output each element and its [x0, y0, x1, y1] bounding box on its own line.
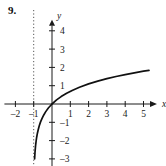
x-axis-tick-label: 4 — [123, 109, 128, 119]
x-axis-arrowhead — [150, 101, 157, 107]
x-axis-tick-label: 5 — [141, 109, 146, 119]
y-axis-label: y — [56, 11, 62, 21]
y-axis-tick-label: 4 — [60, 26, 65, 36]
y-axis-tick-label: –3 — [59, 154, 70, 164]
y-axis-tick-label: –1 — [59, 118, 70, 128]
y-axis-tick-label: –2 — [59, 136, 70, 146]
x-axis-tick-label: 2 — [86, 109, 91, 119]
y-axis-tick-label: 2 — [60, 63, 65, 73]
y-axis-arrowhead — [49, 20, 55, 26]
figure-container: 9. –2–112345–3–2–11234xy — [0, 0, 166, 166]
x-axis-tick-label: –2 — [10, 109, 21, 119]
x-axis-tick-label: 3 — [105, 109, 110, 119]
x-axis-tick-label: –1 — [28, 109, 39, 119]
x-axis-label: x — [161, 99, 166, 109]
plot-render-layer: –2–112345–3–2–11234xy — [4, 10, 166, 166]
y-axis-tick-label: 3 — [60, 45, 65, 55]
graph-plot: –2–112345–3–2–11234xy — [0, 0, 166, 166]
y-axis-tick-label: 1 — [60, 81, 65, 91]
